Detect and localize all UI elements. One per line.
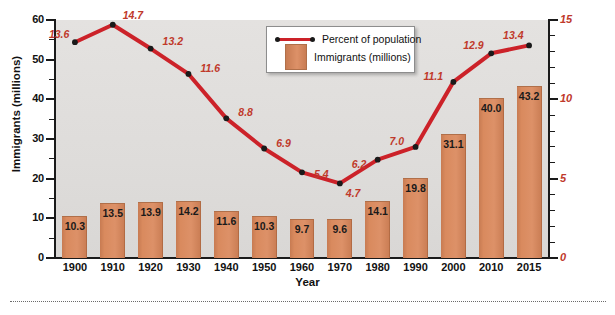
line-data-point[interactable] xyxy=(488,50,494,56)
y-axis-left-minor-tick xyxy=(49,198,54,199)
x-axis-tick-label: 2015 xyxy=(510,261,548,273)
line-data-point[interactable] xyxy=(375,157,381,163)
y-axis-left-minor-tick xyxy=(49,79,54,80)
line-data-point[interactable] xyxy=(186,71,192,77)
y-axis-right-minor-tick xyxy=(550,51,555,52)
line-value-label: 12.9 xyxy=(463,39,483,51)
y-axis-left-tick-label: 50 xyxy=(0,53,44,65)
y-axis-right-minor-tick xyxy=(550,226,555,227)
line-data-point[interactable] xyxy=(110,22,116,28)
line-data-point[interactable] xyxy=(299,169,305,175)
line-value-label: 6.9 xyxy=(276,137,291,149)
x-axis-tick-label: 1990 xyxy=(397,261,435,273)
line-data-point[interactable] xyxy=(261,146,267,152)
x-axis-tick-label: 1980 xyxy=(359,261,397,273)
line-value-label: 14.7 xyxy=(123,9,143,21)
line-value-label: 7.0 xyxy=(390,135,405,147)
chart-figure: 0102030405060 051015 Immigrants (million… xyxy=(0,0,615,315)
x-axis-tick-label: 1950 xyxy=(245,261,283,273)
y-axis-right-major-tick xyxy=(550,19,558,21)
line-value-label: 5.4 xyxy=(314,168,329,180)
y-axis-right-minor-tick xyxy=(550,194,555,195)
y-axis-left-title: Immigrants (millions) xyxy=(10,14,22,214)
x-axis-tick-label: 1920 xyxy=(132,261,170,273)
line-value-label: 13.4 xyxy=(503,29,523,41)
line-data-point[interactable] xyxy=(223,115,229,121)
x-axis-tick-label: 1940 xyxy=(207,261,245,273)
y-axis-left-major-tick xyxy=(46,59,54,61)
line-data-point[interactable] xyxy=(72,39,78,45)
y-axis-left-tick-label: 10 xyxy=(0,211,44,223)
chart-legend[interactable]: Percent of population Immigrants (millio… xyxy=(266,26,415,73)
y-axis-right-major-tick xyxy=(550,178,558,180)
line-value-label: 6.2 xyxy=(352,158,367,170)
line-data-point[interactable] xyxy=(526,42,532,48)
y-axis-left-major-tick xyxy=(46,138,54,140)
y-axis-left-minor-tick xyxy=(49,158,54,159)
legend-label: Percent of population xyxy=(322,33,421,45)
y-axis-left-major-tick xyxy=(46,19,54,21)
y-axis-left-tick-label: 40 xyxy=(0,92,44,104)
x-axis-tick-labels: 1900191019201930194019501960197019801990… xyxy=(56,261,548,277)
x-axis-tick-label: 1930 xyxy=(170,261,208,273)
y-axis-left-tick-label: 0 xyxy=(0,251,44,263)
line-data-point[interactable] xyxy=(413,144,419,150)
x-axis-tick-label: 1960 xyxy=(283,261,321,273)
legend-item-immigrants-millions[interactable]: Immigrants (millions) xyxy=(275,48,411,66)
y-axis-right-minor-tick xyxy=(550,146,555,147)
y-axis-right-major-tick xyxy=(550,98,558,100)
x-axis-title: Year xyxy=(0,276,615,288)
legend-label: Immigrants (millions) xyxy=(314,51,411,63)
y-axis-right-tick-label: 5 xyxy=(560,172,582,184)
line-value-label: 13.6 xyxy=(49,28,69,40)
y-axis-right-line xyxy=(548,19,550,259)
footer-divider xyxy=(10,301,606,302)
y-axis-right-minor-tick xyxy=(550,115,555,116)
y-axis-left-major-tick xyxy=(46,217,54,219)
y-axis-right-minor-tick xyxy=(550,210,555,211)
y-axis-right-minor-tick xyxy=(550,131,555,132)
x-axis-tick-label: 1900 xyxy=(56,261,94,273)
footer-note xyxy=(12,306,572,315)
line-value-label: 11.1 xyxy=(423,70,443,82)
x-axis-tick-label: 1910 xyxy=(94,261,132,273)
line-value-label: 8.8 xyxy=(238,106,253,118)
y-axis-right-minor-tick xyxy=(550,242,555,243)
line-data-point[interactable] xyxy=(148,46,154,52)
y-axis-left-minor-tick xyxy=(49,119,54,120)
y-axis-left-major-tick xyxy=(46,257,54,259)
y-axis-right-tick-label: 10 xyxy=(560,92,582,104)
x-axis-tick-label: 1970 xyxy=(321,261,359,273)
line-marker-icon xyxy=(275,34,315,44)
y-axis-right-minor-tick xyxy=(550,67,555,68)
y-axis-right-minor-tick xyxy=(550,35,555,36)
y-axis-right-minor-tick xyxy=(550,162,555,163)
y-axis-right-major-tick xyxy=(550,257,558,259)
y-axis-left-major-tick xyxy=(46,98,54,100)
line-value-label: 4.7 xyxy=(346,187,361,199)
y-axis-left-minor-tick xyxy=(49,238,54,239)
y-axis-left-tick-label: 20 xyxy=(0,172,44,184)
line-value-label: 11.6 xyxy=(200,62,220,74)
y-axis-right-tick-label: 15 xyxy=(560,13,582,25)
bar-swatch-icon xyxy=(285,44,307,70)
line-data-point[interactable] xyxy=(450,79,456,85)
y-axis-left-tick-label: 30 xyxy=(0,132,44,144)
y-axis-right-minor-tick xyxy=(550,83,555,84)
x-axis-tick-label: 2010 xyxy=(472,261,510,273)
y-axis-right-tick-label: 0 xyxy=(560,251,582,263)
line-data-point[interactable] xyxy=(337,181,343,187)
y-axis-left-tick-label: 60 xyxy=(0,13,44,25)
x-axis-tick-label: 2000 xyxy=(434,261,472,273)
line-value-label: 13.2 xyxy=(163,35,183,47)
y-axis-left-major-tick xyxy=(46,178,54,180)
